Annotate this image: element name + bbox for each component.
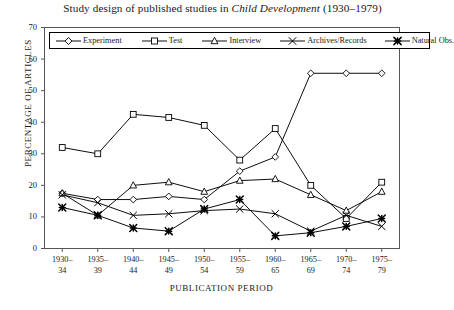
- y-tick-label: 60: [11, 54, 37, 64]
- y-tick-label: 50: [11, 85, 37, 95]
- legend-item-interview[interactable]: Interview: [201, 35, 261, 47]
- data-point: [236, 196, 243, 203]
- legend-label: Natural Obs.: [411, 36, 454, 45]
- x-cross-icon: [279, 35, 306, 47]
- y-tick-label: 10: [11, 211, 37, 221]
- triangle-icon: [201, 35, 228, 47]
- chart-legend: ExperimentTestInterviewArchives/RecordsN…: [49, 32, 430, 49]
- data-point: [237, 157, 243, 163]
- data-point: [308, 182, 314, 188]
- legend-label: Interview: [228, 36, 261, 45]
- legend-item-experiment[interactable]: Experiment: [55, 35, 122, 47]
- data-point: [379, 179, 385, 185]
- data-point: [201, 206, 208, 213]
- legend-label: Archives/Records: [306, 36, 366, 45]
- data-point: [130, 224, 137, 231]
- legend-label: Test: [168, 36, 183, 45]
- diamond-icon: [55, 35, 82, 47]
- asterisk-bold-icon: [384, 35, 411, 47]
- data-point: [307, 229, 314, 236]
- data-point: [166, 115, 172, 121]
- data-point: [272, 126, 278, 132]
- legend-label: Experiment: [82, 36, 122, 45]
- data-point: [272, 232, 279, 239]
- data-point: [165, 228, 172, 235]
- legend-item-archives-records[interactable]: Archives/Records: [279, 35, 366, 47]
- x-tick-label: 1975–79: [358, 255, 406, 276]
- data-point: [343, 223, 350, 230]
- data-point: [95, 151, 101, 157]
- legend-item-natural-obs[interactable]: Natural Obs.: [384, 35, 454, 47]
- y-tick-label: 20: [11, 180, 37, 190]
- legend-item-test[interactable]: Test: [141, 35, 183, 47]
- legend-row: ExperimentTestInterviewArchives/RecordsN…: [50, 33, 429, 48]
- data-point: [59, 204, 66, 211]
- x-tick-line2: 79: [358, 266, 406, 277]
- data-point: [94, 212, 101, 219]
- data-point: [201, 122, 207, 128]
- data-point: [59, 145, 65, 151]
- y-tick-label: 70: [11, 22, 37, 32]
- y-tick-label: 40: [11, 117, 37, 127]
- y-tick-label: 30: [11, 148, 37, 158]
- y-tick-label: 0: [11, 243, 37, 253]
- square-icon: [141, 35, 168, 47]
- data-point: [130, 111, 136, 117]
- data-point: [378, 215, 385, 222]
- x-tick-line1: 1975–: [358, 255, 406, 266]
